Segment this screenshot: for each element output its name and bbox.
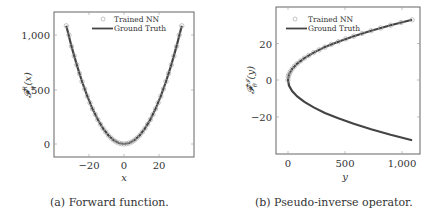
legend-label-truth: Ground Truth <box>114 24 166 33</box>
chart-forward-function: 0 500 1,000 −20 0 20 x 𝓕Rψ(x) <box>21 12 194 183</box>
ytick-label: −20 <box>251 112 272 123</box>
xtick-label: 0 <box>121 160 127 171</box>
legend-right: Trained NN Ground Truth <box>286 15 360 34</box>
xtick-label: 20 <box>153 160 166 171</box>
caption-a: (a) Forward function. <box>50 196 169 209</box>
figure: 0 500 1,000 −20 0 20 x 𝓕Rψ(x) <box>0 0 423 221</box>
legend-left: Trained NN Ground Truth <box>92 15 166 34</box>
chart-pseudo-inverse: 20 0 −20 0 500 1,000 y 𝓕†𝓘θ(y) Trained N… <box>244 7 420 182</box>
x-axis-label: y <box>341 171 348 182</box>
ytick-label: 20 <box>259 39 272 50</box>
ytick-label: 0 <box>266 75 272 86</box>
ytick-label: 0 <box>44 139 50 150</box>
xtick-label: 500 <box>335 158 354 169</box>
xtick-label: −20 <box>78 160 99 171</box>
x-axis-label: x <box>121 172 127 183</box>
series-ground-truth-line <box>66 26 182 144</box>
y-axis-label: 𝓕†𝓘θ(y) <box>244 66 258 94</box>
caption-b: (b) Pseudo-inverse operator. <box>255 196 413 209</box>
legend-marker-icon <box>101 17 105 21</box>
legend-label-truth: Ground Truth <box>308 24 360 33</box>
legend-marker-icon <box>293 17 297 21</box>
plot-frame-left <box>54 12 194 157</box>
ytick-label: 1,000 <box>21 30 50 41</box>
xtick-label: 0 <box>285 158 291 169</box>
series-ground-truth-line <box>288 20 412 140</box>
legend-label-trained: Trained NN <box>114 15 159 24</box>
legend-label-trained: Trained NN <box>308 15 353 24</box>
xtick-label: 1,000 <box>388 158 417 169</box>
